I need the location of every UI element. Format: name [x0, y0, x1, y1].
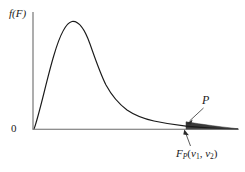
y-axis-label-close: ) — [22, 7, 26, 19]
f-distribution-figure: f(F) 0 P FP(v1, v2) — [0, 0, 245, 172]
critical-value-label: FP(v1, v2) — [176, 148, 217, 161]
critical-value-arrowhead — [183, 130, 189, 136]
y-axis-label: f(F) — [9, 8, 26, 19]
critical-value-leader-line — [186, 134, 191, 146]
density-curve — [34, 21, 238, 129]
tail-probability-label: P — [202, 94, 209, 106]
critical-value-main: F — [176, 147, 183, 159]
critical-value-paren-close: ) — [214, 147, 218, 159]
origin-label: 0 — [11, 123, 17, 134]
p-annotation-leader-line — [190, 108, 204, 121]
